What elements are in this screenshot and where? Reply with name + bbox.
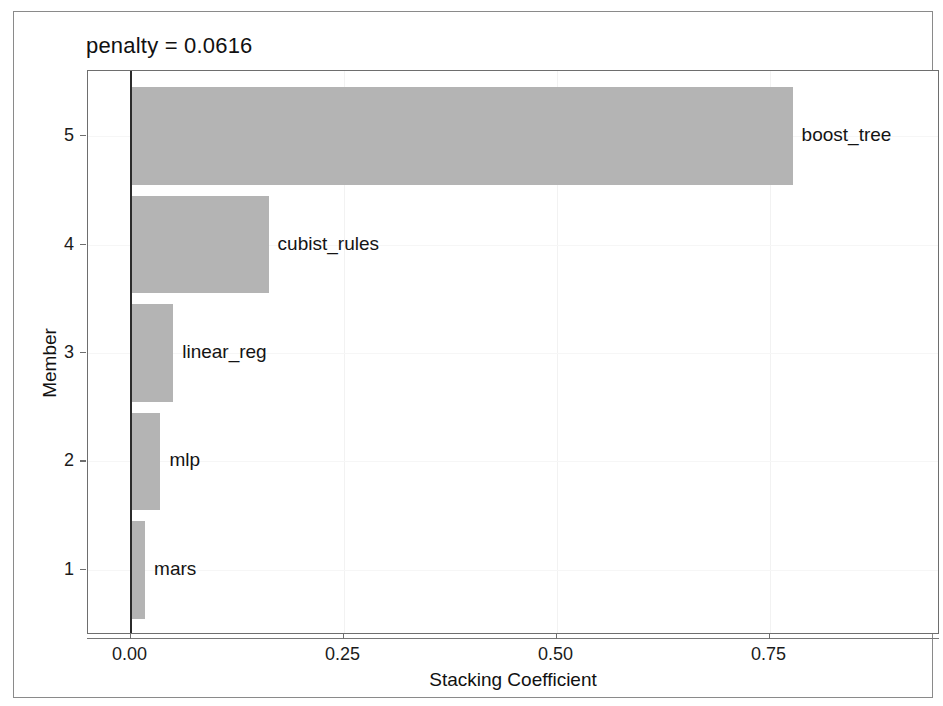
x-tick-mark-1	[343, 634, 344, 639]
y-tick-label-4: 5	[14, 125, 74, 146]
x-tick-label-0: 0.00	[112, 644, 147, 665]
x-tick-mark-3	[769, 634, 770, 639]
bar-label-boost_tree: boost_tree	[802, 124, 892, 146]
plot-title: penalty = 0.0616	[86, 33, 253, 59]
y-tick-mark-2	[80, 352, 86, 353]
x-tick-mark-0	[130, 634, 131, 639]
bar-label-linear_reg: linear_reg	[182, 341, 267, 363]
bar-linear_reg	[131, 304, 174, 402]
y-tick-mark-1	[80, 460, 86, 461]
x-tick-mark-2	[556, 634, 557, 639]
y-axis-title: Member	[39, 213, 61, 513]
figure-frame: penalty = 0.0616 0.000.250.500.75 Stacki…	[13, 11, 933, 698]
y-gridline-1	[88, 461, 938, 462]
bar-cubist_rules	[131, 196, 269, 294]
x-axis-title: Stacking Coefficient	[87, 669, 939, 691]
figure-page: penalty = 0.0616 0.000.250.500.75 Stacki…	[0, 0, 943, 706]
bar-mars	[131, 521, 145, 619]
y-tick-mark-0	[80, 569, 86, 570]
x-tick-label-2: 0.50	[538, 644, 573, 665]
bar-mlp	[131, 413, 161, 511]
bar-label-mars: mars	[154, 558, 196, 580]
bar-label-cubist_rules: cubist_rules	[278, 233, 379, 255]
x-axis-line	[87, 638, 939, 639]
bar-label-mlp: mlp	[169, 449, 200, 471]
y-tick-label-0: 1	[14, 558, 74, 579]
bar-boost_tree	[131, 87, 793, 185]
zero-line	[130, 71, 132, 633]
y-tick-mark-3	[80, 244, 86, 245]
x-tick-label-1: 0.25	[325, 644, 360, 665]
x-tick-label-3: 0.75	[751, 644, 786, 665]
y-tick-mark-4	[80, 135, 86, 136]
y-gridline-0	[88, 570, 938, 571]
